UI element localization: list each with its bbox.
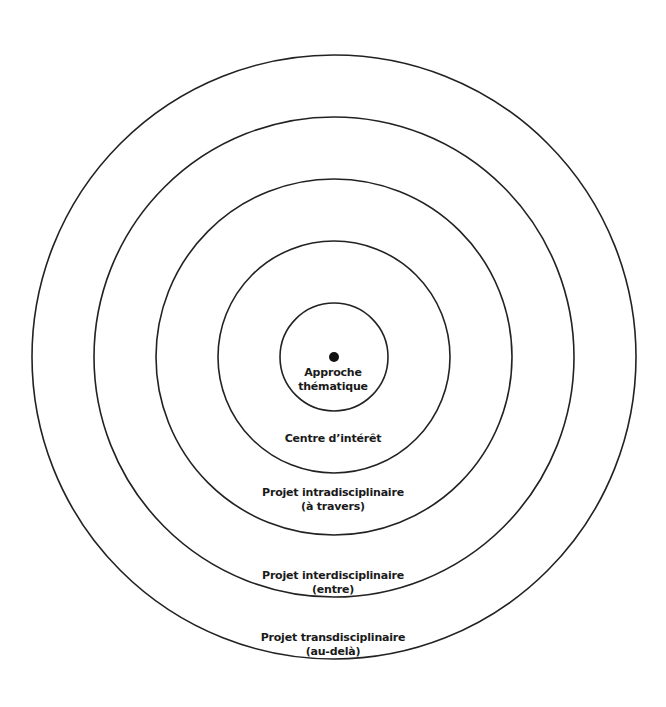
center-dot <box>329 352 339 362</box>
label-centre-interet: Centre d’intérêt <box>0 432 666 446</box>
label-line: Centre d’intérêt <box>0 432 666 446</box>
label-projet-interdisciplinaire: Projet interdisciplinaire (entre) <box>0 569 666 597</box>
label-line: Projet transdisciplinaire <box>0 631 666 645</box>
label-projet-transdisciplinaire: Projet transdisciplinaire (au-delà) <box>0 631 666 659</box>
concentric-diagram <box>0 0 666 707</box>
label-line: Approche <box>0 366 666 380</box>
label-line: thématique <box>0 380 666 394</box>
label-line: (à travers) <box>0 500 666 514</box>
label-line: Projet interdisciplinaire <box>0 569 666 583</box>
label-line: Projet intradisciplinaire <box>0 486 666 500</box>
label-projet-intradisciplinaire: Projet intradisciplinaire (à travers) <box>0 486 666 514</box>
label-approche-thematique: Approche thématique <box>0 366 666 394</box>
label-line: (au-delà) <box>0 645 666 659</box>
label-line: (entre) <box>0 583 666 597</box>
